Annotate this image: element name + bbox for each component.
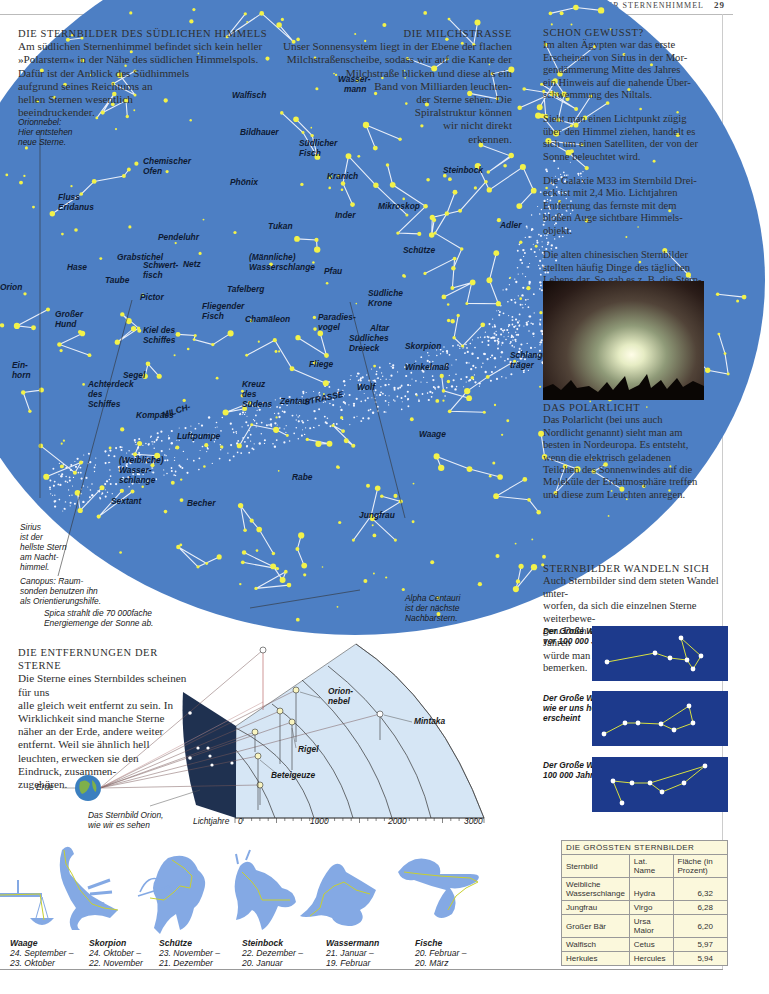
- constellation-label: Ein-: [12, 360, 28, 370]
- distance-diagram-svg: [0, 640, 540, 830]
- text-line: schwemmung des Niltals.: [543, 89, 718, 101]
- light-years-axis-label: Lichtjahre: [193, 816, 229, 826]
- text-line: Hier entstehen: [18, 127, 72, 137]
- text-line: Sonne beleuchtet wird.: [543, 151, 718, 163]
- text-line: Orionnebel:: [18, 117, 72, 127]
- aurora-text: DAS POLARLICHT Das Polarlicht (bei uns a…: [543, 402, 723, 501]
- zodiac-capricorn-label: Steinbock22. Dezember –20. Januar: [242, 938, 303, 968]
- text-line: am Nacht-: [20, 552, 67, 562]
- constellation-label: Krone: [368, 298, 393, 308]
- mintaka-label: Mintaka: [414, 716, 445, 726]
- text-line: aufgrund seines Reichtums an: [18, 80, 288, 93]
- zodiac-name: Schütze: [159, 938, 192, 948]
- text-line: gendämmerung Mitte des Jahres: [543, 64, 718, 76]
- text-line: nebel: [328, 696, 353, 706]
- alpha-centauri-caption: Alpha Centauri ist der nächste Nachbarst…: [405, 593, 460, 623]
- constellation-label: des: [88, 389, 103, 399]
- zodiac-date: 20. März: [415, 958, 467, 968]
- constellation-label: Kreuz: [242, 379, 266, 389]
- constellation-label: Mikroskop: [378, 201, 420, 211]
- dipper-past-svg: [592, 626, 728, 681]
- text-line: eck ist mit 2,4 Mio. Lichtjahren: [543, 187, 718, 199]
- pisces-figure: [398, 859, 479, 919]
- column-header: Fläche (in Prozent): [673, 855, 728, 878]
- cell-constellation: Weibliche Wasserschlange: [562, 878, 630, 901]
- zodiac-name: Waage: [10, 938, 38, 948]
- text-line: hellste Stern: [20, 542, 67, 552]
- constellation-label: Chamäleon: [245, 314, 290, 324]
- aquarius-figure: [300, 864, 376, 926]
- sagittarius-figure: [138, 856, 205, 934]
- table-row: HerkulesHercules5,94: [562, 952, 728, 966]
- text-line: und diese zum Leuchten anregen.: [543, 489, 723, 501]
- constellation-label: Schütze: [403, 245, 435, 255]
- text-line: Energiemenge der Sonne ab.: [44, 618, 153, 628]
- constellation-label: Hase: [67, 262, 87, 272]
- zodiac-date: 20. Februar –: [415, 948, 467, 958]
- table-title: DIE GRÖSSTEN STERNBILDER: [562, 841, 728, 855]
- constellation-label: Großer: [55, 309, 84, 319]
- text-line: der Sterne sehen. Die: [270, 93, 512, 106]
- constellation-label: Pfau: [324, 266, 342, 276]
- constellation-label: Dreieck: [349, 343, 380, 353]
- text-line: Unser Sonnensystem liegt in der Ebene de…: [270, 40, 512, 53]
- text-line: neue Sterne.: [18, 137, 72, 147]
- spica-caption: Spica strahlt die 70 000fache Energiemen…: [44, 608, 153, 628]
- cell-area: 6,32: [673, 878, 728, 901]
- constellation-label: Kranich: [327, 171, 358, 181]
- cell-latin: Hydra: [629, 878, 673, 901]
- constellation-label: Fisch: [202, 311, 224, 321]
- constellation-label: Kiel des: [143, 325, 175, 335]
- text-line: Moleküle der Erdatmosphäre treffen: [543, 476, 723, 488]
- cell-latin: Ursa Maior: [629, 915, 673, 938]
- constellation-label: Altar: [369, 323, 390, 333]
- constellation-label: Winkelmaß: [405, 362, 449, 372]
- text-line: Orion-: [328, 686, 353, 696]
- constellation-label: Südens: [242, 399, 273, 409]
- dipper-panel-past: [592, 626, 728, 681]
- constellation-label: Fliege: [309, 359, 334, 369]
- text-line: Milchstraße blicken und diese als ein: [270, 67, 512, 80]
- column-header: Sternbild: [562, 855, 630, 878]
- zodiac-date: 21. Dezember: [159, 958, 220, 968]
- constellation-label: Tukan: [268, 221, 293, 231]
- text-line: Sieht man einen Lichtpunkt zügig: [543, 113, 718, 125]
- constellation-label: fisch: [143, 270, 163, 280]
- text-line: sonden benutzen ihn: [20, 586, 101, 596]
- zodiac-scorpio-label: Skorpion24. Oktober –22. November: [89, 938, 143, 968]
- zodiac-aquarius-label: Wassermann21. Januar –19. Februar: [326, 938, 379, 968]
- text-line: »Polarstern« in der Nähe des südlichen H…: [18, 53, 288, 66]
- constellation-label: Sextant: [111, 496, 142, 506]
- text-line: Das Polarlicht (bei uns auch: [543, 414, 723, 426]
- constellation-label: Paradies-: [318, 312, 356, 322]
- constellation-label: Adler: [499, 220, 522, 230]
- zodiac-date: 21. Januar –: [326, 948, 379, 958]
- canopus-caption: Canopus: Raum- sonden benutzen ihn als O…: [20, 576, 101, 606]
- did-you-know-title: SCHON GEWUSST?: [543, 27, 718, 39]
- fact-paragraph: Die Galaxie M33 im Sternbild Drei- eck i…: [543, 175, 718, 237]
- text-line: Das Sternbild Orion,: [88, 810, 163, 820]
- axis-tick-1000: 1000: [310, 816, 329, 826]
- axis-tick-3000: 3000: [464, 816, 483, 826]
- constellation-label: Inder: [335, 210, 356, 220]
- text-line: hellen Sternen wesentlich: [18, 93, 288, 106]
- text-line: Im alten Ägypten war das erste: [543, 39, 718, 51]
- milky-way-title: DIE MILCHSTRASSE: [270, 27, 512, 40]
- constellation-label: Südliche: [368, 288, 403, 298]
- axis-tick-2000: 2000: [388, 816, 407, 826]
- dipper-future-svg: [592, 757, 728, 812]
- zodiac-date: 23. Oktober: [10, 958, 74, 968]
- text-line: Teilchen des Sonnenwindes auf die: [543, 464, 723, 476]
- cell-area: 5,97: [673, 938, 728, 952]
- zodiac-pisces-label: Fische20. Februar –20. März: [415, 938, 467, 968]
- scorpio-figure: [60, 847, 118, 930]
- zodiac-libra-label: Waage24. September –23. Oktober: [10, 938, 74, 968]
- text-line: ist der nächste: [405, 603, 460, 613]
- text-line: besten in Nordeuropa. Es entsteht,: [543, 439, 723, 451]
- constellation-label: Wasser-: [119, 465, 152, 475]
- constellation-label: Fisch: [299, 148, 321, 158]
- milky-way-intro: DIE MILCHSTRASSE Unser Sonnensystem lieg…: [270, 27, 512, 146]
- constellation-label: träger: [510, 360, 534, 370]
- text-line: Erscheinen von Sirius in der Mor-: [543, 52, 718, 64]
- text-line: wie wir es sehen: [88, 820, 163, 830]
